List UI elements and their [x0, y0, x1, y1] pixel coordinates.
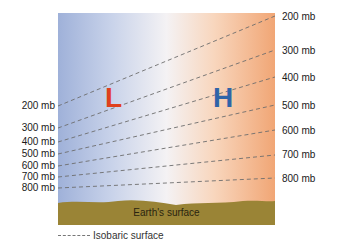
legend: Isobaric surface: [58, 230, 164, 241]
right-label-200: 200 mb: [282, 12, 315, 22]
isobar-300: [58, 50, 275, 128]
right-label-700: 700 mb: [282, 150, 315, 160]
isobar-500: [58, 105, 275, 154]
left-label-800: 800 mb: [22, 183, 55, 193]
left-label-200: 200 mb: [22, 101, 55, 111]
right-label-400: 400 mb: [282, 73, 315, 83]
isobar-200: [58, 16, 275, 106]
isobar-800: [58, 178, 275, 188]
isobar-400: [58, 77, 275, 142]
left-label-600: 600 mb: [22, 161, 55, 171]
left-label-400: 400 mb: [22, 137, 55, 147]
left-label-300: 300 mb: [22, 123, 55, 133]
isobar-600: [58, 130, 275, 166]
high-pressure-label: H: [213, 84, 233, 112]
dashed-line-icon: [58, 235, 90, 236]
right-label-600: 600 mb: [282, 126, 315, 136]
right-label-800: 800 mb: [282, 174, 315, 184]
left-label-700: 700 mb: [22, 172, 55, 182]
legend-label: Isobaric surface: [93, 230, 164, 241]
left-label-500: 500 mb: [22, 149, 55, 159]
right-label-300: 300 mb: [282, 46, 315, 56]
right-label-500: 500 mb: [282, 101, 315, 111]
isobar-700: [58, 155, 275, 177]
low-pressure-label: L: [105, 84, 122, 112]
